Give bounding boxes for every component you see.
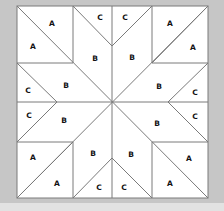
piece-label-b: B (92, 54, 98, 63)
piece-label-b: B (90, 149, 96, 158)
piece-label-a: A (30, 42, 36, 51)
piecing-lines (17, 6, 208, 198)
piece-label-b: B (129, 53, 135, 62)
piece-label-a: A (186, 154, 192, 163)
piece-label-c: C (122, 13, 128, 22)
piece-label-c: C (96, 183, 102, 192)
piece-label-a: A (167, 19, 173, 28)
piece-label-c: C (121, 183, 127, 192)
piece-label-a: A (167, 179, 173, 188)
piece-label-b: B (128, 150, 134, 159)
quilt-block-diagram: AACCAABBBBCCCCBBBBAAAACC (0, 0, 224, 211)
piece-label-b: B (61, 116, 67, 125)
piece-label-b: B (156, 82, 162, 91)
piece-label-a: A (30, 153, 36, 162)
piece-label-c: C (97, 13, 103, 22)
piece-label-b: B (154, 119, 160, 128)
piece-label-c: C (25, 86, 31, 95)
piece-label-c: C (192, 112, 198, 121)
piece-label-c: C (26, 111, 32, 120)
piece-label-a: A (54, 179, 60, 188)
piece-label-b: B (63, 81, 69, 90)
piece-label-c: C (192, 88, 198, 97)
piece-label-a: A (49, 19, 55, 28)
piece-label-a: A (190, 43, 196, 52)
